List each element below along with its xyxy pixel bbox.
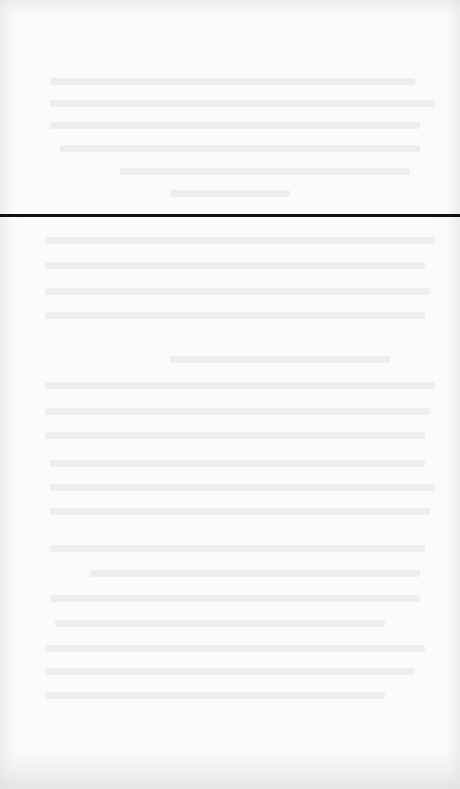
bleed-through-line xyxy=(45,408,430,415)
bleed-through-line xyxy=(50,460,425,467)
bleed-through-line xyxy=(45,432,425,439)
bleed-through-line xyxy=(55,620,385,627)
bleed-through-line xyxy=(50,100,435,107)
bleed-through-line xyxy=(45,237,435,244)
bleed-through-line xyxy=(50,508,430,515)
bleed-through-line xyxy=(50,122,420,129)
bleed-through-line xyxy=(170,190,290,197)
bleed-through-line xyxy=(45,262,425,269)
bleed-through-line xyxy=(90,570,420,577)
bleed-through-line xyxy=(45,382,435,389)
bleed-through-line xyxy=(45,288,430,295)
bleed-through-line xyxy=(45,645,425,652)
bleed-through-line xyxy=(45,692,385,699)
bleed-through-line xyxy=(60,145,420,152)
horizontal-rule xyxy=(0,214,460,217)
bleed-through-line xyxy=(170,356,390,363)
bleed-through-line xyxy=(50,78,415,85)
scanned-page xyxy=(0,0,460,789)
bleed-through-line xyxy=(50,545,425,552)
bleed-through-line xyxy=(50,484,435,491)
bleed-through-line xyxy=(45,312,425,319)
bleed-through-line xyxy=(120,168,410,175)
bleed-through-line xyxy=(50,595,420,602)
bleed-through-line xyxy=(45,668,415,675)
